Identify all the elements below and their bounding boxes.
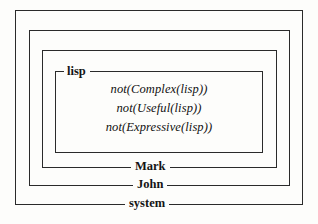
- formula-line: not(Complex(lisp)): [55, 80, 263, 99]
- nested-context-diagram: not(Complex(lisp)) not(Useful(lisp)) not…: [0, 0, 318, 224]
- context-label-system: system: [125, 197, 169, 210]
- formula-line: not(Expressive(lisp)): [55, 118, 263, 137]
- context-label-lisp: lisp: [64, 64, 90, 80]
- formula-line: not(Useful(lisp)): [55, 99, 263, 118]
- context-label-mark: Mark: [131, 160, 170, 173]
- formula-list: not(Complex(lisp)) not(Useful(lisp)) not…: [55, 80, 263, 137]
- context-label-john: John: [133, 178, 167, 191]
